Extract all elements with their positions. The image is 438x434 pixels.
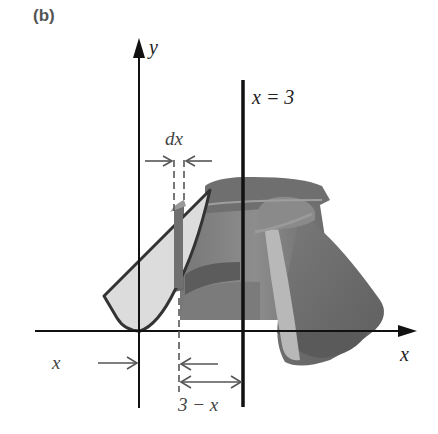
y-axis-arrow-icon xyxy=(133,38,145,58)
x-axis-label: x xyxy=(400,343,409,366)
x-distance-arrow xyxy=(98,357,137,369)
radius-arrows xyxy=(181,358,241,388)
solid-of-revolution-diagram xyxy=(0,0,438,434)
dx-arrows xyxy=(145,156,212,166)
line-label: x = 3 xyxy=(252,86,294,109)
x-axis-arrow-icon xyxy=(398,325,417,337)
y-axis-label: y xyxy=(149,36,158,59)
x-distance-label: x xyxy=(52,352,60,374)
dx-label: dx xyxy=(165,128,183,150)
shell-strip xyxy=(174,210,183,288)
radius-label: 3 − x xyxy=(178,394,218,416)
